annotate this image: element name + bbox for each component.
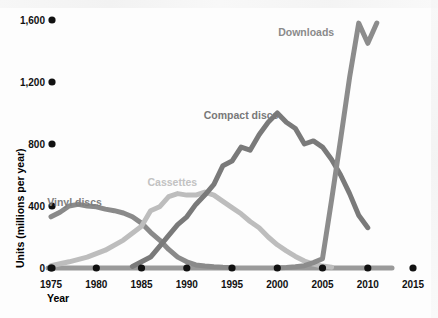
y-tick-label: 0 xyxy=(39,263,45,274)
line-chart-plot: 04008001,2001,600 1975198019851990199520… xyxy=(0,0,438,318)
y-tick-label: 800 xyxy=(28,139,45,150)
series-label-vinyl-discs: Vinyl discs xyxy=(47,196,102,208)
y-tick-label: 1,200 xyxy=(20,77,45,88)
y-tick-dot xyxy=(48,16,55,23)
y-tick-dot xyxy=(48,78,55,85)
x-tick-label: 2015 xyxy=(402,279,425,290)
series-inline-labels: Vinyl discsCassettesCompact discsDownloa… xyxy=(47,26,334,209)
x-tick-label: 1980 xyxy=(85,279,108,290)
x-tick-label: 2000 xyxy=(266,279,289,290)
series-label-compact-discs: Compact discs xyxy=(204,109,279,121)
x-tick-dot xyxy=(364,264,371,271)
x-tick-dot xyxy=(183,264,190,271)
series-layer xyxy=(51,23,377,268)
x-tick-dot xyxy=(93,264,100,271)
y-tick-label: 400 xyxy=(28,201,45,212)
x-tick-label: 1985 xyxy=(130,279,153,290)
x-tick-dot xyxy=(319,264,326,271)
y-tick-label: 1,600 xyxy=(20,15,45,26)
x-tick-dot xyxy=(409,264,416,271)
x-tick-dot xyxy=(138,264,145,271)
x-tick-label: 2005 xyxy=(311,279,334,290)
x-tick-label: 1975 xyxy=(40,279,63,290)
x-tick-label: 1990 xyxy=(176,279,199,290)
x-tick-dot xyxy=(47,264,54,271)
chart-container: 04008001,2001,600 1975198019851990199520… xyxy=(0,0,438,318)
x-tick-dot xyxy=(228,264,235,271)
x-tick-label: 2010 xyxy=(357,279,380,290)
y-axis-title: Units (millions per year) xyxy=(14,148,26,268)
x-tick-label: 1995 xyxy=(221,279,244,290)
x-tick-dot xyxy=(274,264,281,271)
x-axis-ticks: 197519801985199019952000200520102015 xyxy=(40,264,425,290)
x-axis-title: Year xyxy=(47,292,69,304)
series-label-cassettes: Cassettes xyxy=(147,176,197,188)
y-tick-dot xyxy=(48,140,55,147)
series-line-downloads xyxy=(277,23,377,268)
series-label-downloads: Downloads xyxy=(278,26,334,38)
